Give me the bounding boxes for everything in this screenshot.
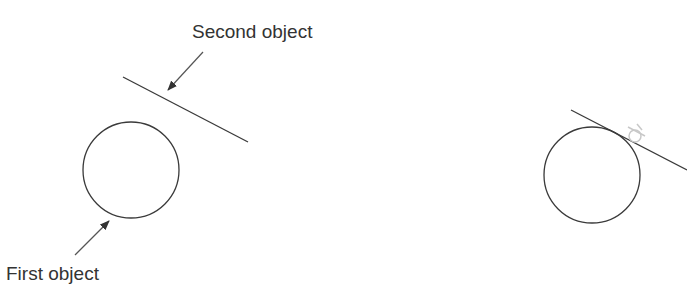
after-panel	[544, 110, 687, 223]
second-object-arrow	[168, 52, 203, 90]
diagram-canvas: Second object First object	[0, 0, 687, 293]
before-panel	[75, 52, 248, 255]
second-object-label: Second object	[192, 22, 312, 41]
second-object-line	[123, 77, 248, 142]
first-object-arrow	[75, 221, 109, 255]
tangent-line	[571, 110, 687, 170]
tangent-icon	[628, 124, 645, 142]
first-object-label: First object	[6, 264, 99, 283]
first-object-circle	[83, 122, 179, 218]
diagram-drawing	[0, 0, 687, 293]
tangent-circle	[544, 127, 640, 223]
